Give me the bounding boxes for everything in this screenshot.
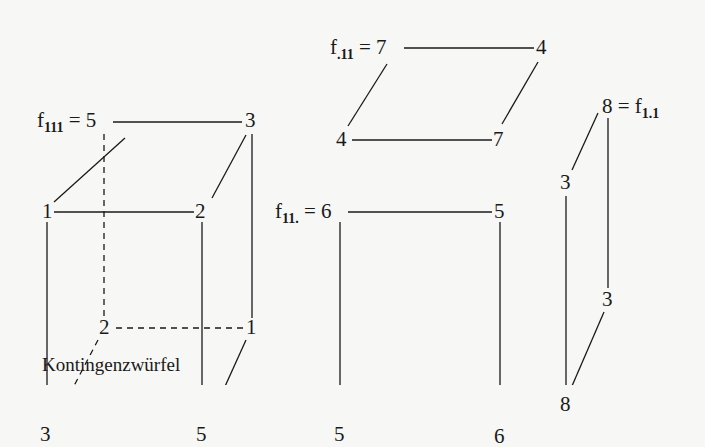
- cube-value-top-back-right: 3: [245, 110, 256, 131]
- slab-side-edge-bottom: [572, 312, 604, 385]
- cube-value-bottom-back-left: 2: [99, 317, 110, 338]
- slab-top-value-back-right: 4: [536, 37, 547, 58]
- cube-edge-top-right-diagonal: [212, 135, 246, 198]
- cube-edge-top-left-diagonal: [54, 138, 125, 202]
- cube-value-bottom-front-right: 5: [196, 424, 207, 445]
- cube-corner-label: f111 = 5: [37, 110, 96, 135]
- slab-front-value-bottom-right: 6: [494, 426, 505, 447]
- slab-top-edge-right: [502, 62, 538, 124]
- slab-top-value-front-left: 4: [336, 129, 347, 150]
- cube-value-top-front-right: 2: [195, 201, 206, 222]
- slab-side-value-top-front: 3: [560, 172, 571, 193]
- cube-value-top-front-left: 1: [42, 201, 53, 222]
- figure-caption: Kontingenzwürfel: [42, 354, 180, 376]
- cube-value-bottom-front-left: 3: [40, 424, 51, 445]
- cube-edge-bottom-right-diagonal: [208, 340, 246, 385]
- slab-top-edge-left: [348, 64, 387, 126]
- slab-side-value-bottom-back: 3: [602, 289, 613, 310]
- slab-front-corner-label: f11. = 6: [275, 201, 332, 226]
- cube-value-bottom-back-right: 1: [246, 317, 257, 338]
- slab-side-edge-top: [572, 113, 598, 170]
- slab-front-value-top-right: 5: [494, 201, 505, 222]
- slab-top-value-front-right: 7: [493, 129, 504, 150]
- slab-top-corner-label: f.11 = 7: [330, 37, 387, 62]
- slab-front-value-bottom-left: 5: [334, 424, 345, 445]
- slab-side-corner-label: 8 = f1.1: [602, 96, 659, 121]
- slab-side-value-bottom-front: 8: [560, 394, 571, 415]
